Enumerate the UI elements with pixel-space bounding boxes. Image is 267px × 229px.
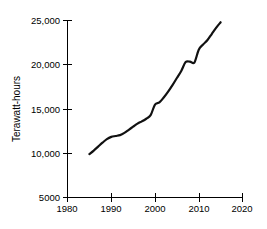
x-tick-label-2010: 2010 [188,203,209,214]
y-axis-tick-labels: 5000 10,000 15,000 20,000 25,000 [31,15,60,203]
y-axis-title: Terawatt-hours [11,76,22,142]
line-chart: Terawatt-hours 5000 10,000 15,000 20,000… [0,0,267,229]
x-tick-label-1990: 1990 [100,203,121,214]
y-tick-label-15000: 15,000 [31,104,60,115]
x-axis-tick-labels: 1980 1990 2000 2010 2020 [56,203,252,214]
chart-container: Terawatt-hours 5000 10,000 15,000 20,000… [0,0,267,229]
x-tick-label-2000: 2000 [144,203,165,214]
y-tick-label-20000: 20,000 [31,59,60,70]
data-line-world-electricity-generation [89,22,220,154]
y-tick-label-25000: 25,000 [31,15,60,26]
y-tick-label-5000: 5000 [39,192,60,203]
x-tick-label-2020: 2020 [231,203,252,214]
y-tick-label-10000: 10,000 [31,148,60,159]
x-tick-label-1980: 1980 [56,203,77,214]
